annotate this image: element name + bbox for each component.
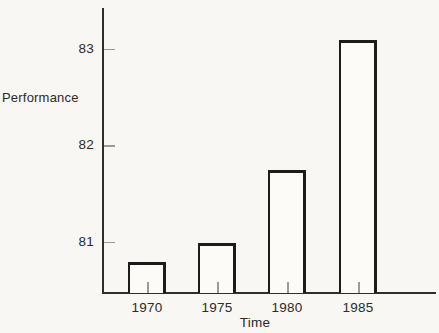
y-tick-81 xyxy=(104,242,115,244)
x-tick-1975 xyxy=(217,282,219,293)
bar-chart-figure: Performance 8182831970197519801985 Time xyxy=(0,0,439,333)
x-tick-label-1985: 1985 xyxy=(331,300,385,315)
x-tick-label-1980: 1980 xyxy=(260,300,314,315)
y-tick-label-82: 82 xyxy=(58,137,94,152)
y-axis-line xyxy=(102,8,104,293)
y-tick-label-81: 81 xyxy=(58,234,94,249)
x-tick-1980 xyxy=(287,282,289,293)
y-tick-83 xyxy=(104,49,115,51)
bar-1980 xyxy=(268,170,306,293)
y-tick-82 xyxy=(104,145,115,147)
bar-1985 xyxy=(339,40,377,293)
x-tick-1970 xyxy=(147,282,149,293)
y-tick-label-83: 83 xyxy=(58,41,94,56)
x-tick-1985 xyxy=(358,282,360,293)
x-axis-label: Time xyxy=(230,315,280,330)
y-axis-label: Performance xyxy=(2,90,79,105)
x-tick-label-1970: 1970 xyxy=(120,300,174,315)
x-tick-label-1975: 1975 xyxy=(190,300,244,315)
